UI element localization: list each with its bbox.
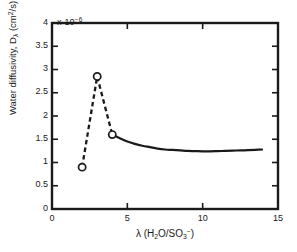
data-point-marker <box>109 131 116 138</box>
chart-figure: x 10−6 Water diffusivity, Dλ (cm2/s) λ (… <box>0 0 297 252</box>
axes-ticks <box>52 23 278 209</box>
data-curves <box>82 76 263 167</box>
series-1-solid-line <box>112 135 263 152</box>
series-0-dashed-line <box>82 76 112 167</box>
plot-area <box>0 0 297 252</box>
axes-frame <box>52 23 278 209</box>
data-point-marker <box>94 73 101 80</box>
data-point-marker <box>79 164 86 171</box>
